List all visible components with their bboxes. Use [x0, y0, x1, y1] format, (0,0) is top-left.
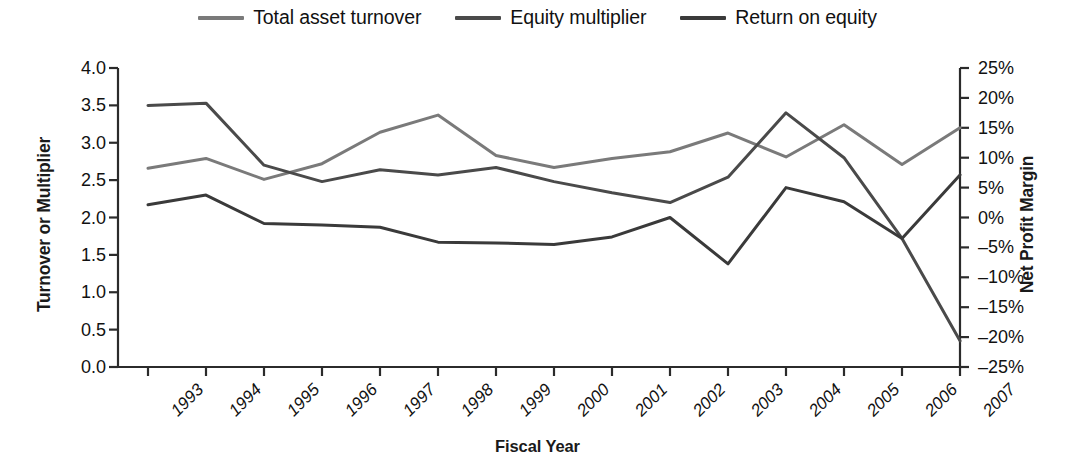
chart-container: Total asset turnoverEquity multiplierRet… — [0, 0, 1075, 473]
series-line — [148, 115, 960, 179]
series-line — [148, 103, 960, 341]
series-line — [148, 175, 960, 264]
plot-area — [0, 0, 1075, 473]
